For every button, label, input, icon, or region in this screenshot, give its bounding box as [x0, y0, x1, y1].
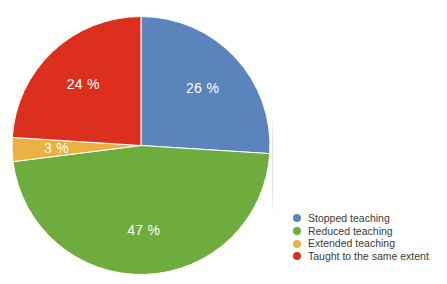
legend-item-reduced-teaching: Reduced teaching [293, 225, 429, 238]
legend-swatch-blue-icon [293, 214, 301, 222]
legend-swatch-green-icon [293, 227, 301, 235]
legend-swatch-yellow-icon [293, 240, 301, 248]
slice-value-label: 47 % [127, 222, 160, 238]
legend-item-stopped-teaching: Stopped teaching [293, 212, 429, 225]
legend-label-stopped-teaching: Stopped teaching [308, 212, 390, 225]
legend-label-reduced-teaching: Reduced teaching [308, 225, 393, 238]
slice-value-label: 24 % [67, 76, 100, 92]
legend-label-taught-same-extent: Taught to the same extent [308, 250, 429, 263]
pie-slice-reduced-teaching [13, 146, 270, 275]
chart-figure: 26 %47 %3 %24 % Stopped teaching Reduced… [0, 0, 447, 284]
legend-swatch-red-icon [293, 252, 301, 260]
slice-value-label: 3 % [44, 140, 69, 156]
legend: Stopped teaching Reduced teaching Extend… [293, 212, 429, 263]
legend-item-taught-same-extent: Taught to the same extent [293, 250, 429, 263]
slice-value-label: 26 % [186, 80, 219, 96]
legend-label-extended-teaching: Extended teaching [308, 237, 395, 250]
legend-item-extended-teaching: Extended teaching [293, 237, 429, 250]
scan-artifact-line [272, 118, 273, 216]
